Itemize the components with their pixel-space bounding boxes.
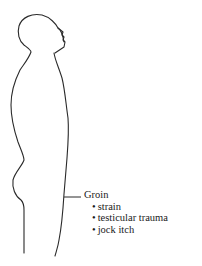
bullet-icon: • — [92, 224, 96, 235]
condition-item: •testicular trauma — [92, 212, 168, 224]
groin-conditions-list: •strain •testicular trauma •jock itch — [84, 201, 168, 236]
condition-item: •strain — [92, 201, 168, 213]
body-back-outline — [11, 14, 64, 253]
face-profile — [55, 28, 65, 53]
groin-label: Groin — [84, 189, 168, 201]
condition-item: •jock itch — [92, 224, 168, 236]
bullet-icon: • — [92, 212, 96, 223]
body-front-outline — [54, 53, 68, 256]
bullet-icon: • — [92, 201, 96, 212]
groin-callout: Groin •strain •testicular trauma •jock i… — [84, 189, 168, 235]
